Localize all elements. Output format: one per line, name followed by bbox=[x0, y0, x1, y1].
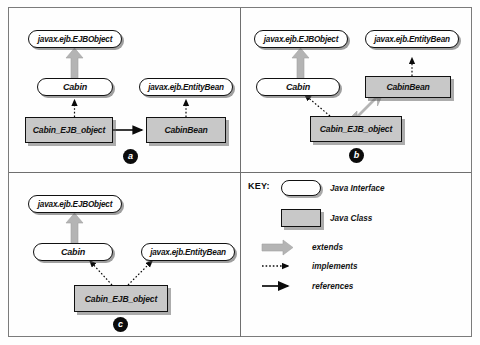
key-title: KEY: bbox=[248, 181, 270, 191]
panel-b-node-cabinbean[interactable]: CabinBean bbox=[365, 76, 451, 98]
panel-c-node-cabin[interactable]: Cabin bbox=[33, 243, 113, 261]
panel-c-node-entitybean[interactable]: javax.ejb.EntityBean bbox=[141, 243, 235, 261]
key-class-symbol bbox=[281, 209, 321, 227]
key-interface-symbol bbox=[281, 180, 321, 196]
key-label-extends: extends bbox=[312, 243, 343, 252]
key-label-interface: Java Interface bbox=[330, 184, 385, 193]
key-label-references: references bbox=[312, 282, 353, 291]
panel-c-node-cabin-ejb-object[interactable]: Cabin_EJB_object bbox=[74, 285, 168, 312]
panel-b-node-cabin-ejb-object[interactable]: Cabin_EJB_object bbox=[310, 116, 402, 142]
panel-b-node-cabin[interactable]: Cabin bbox=[256, 78, 340, 96]
panel-a-node-cabinbean[interactable]: CabinBean bbox=[146, 117, 226, 143]
panel-b-node-ejbobject[interactable]: javax.ejb.EJBObject bbox=[254, 30, 348, 48]
panel-divider-horizontal bbox=[9, 172, 471, 173]
diagram-figure: javax.ejb.EJBObject Cabin javax.ejb.Enti… bbox=[0, 0, 480, 345]
panel-a-marker: a bbox=[123, 149, 138, 164]
panel-a-node-cabin-ejb-object[interactable]: Cabin_EJB_object bbox=[25, 117, 113, 143]
key-label-class: Java Class bbox=[330, 214, 372, 223]
panel-a-node-ejbobject[interactable]: javax.ejb.EJBObject bbox=[28, 30, 122, 48]
key-label-implements: implements bbox=[312, 262, 358, 271]
panel-a-node-entitybean[interactable]: javax.ejb.EntityBean bbox=[139, 78, 233, 96]
panel-b-node-entitybean[interactable]: javax.ejb.EntityBean bbox=[365, 30, 459, 48]
panel-c-node-ejbobject[interactable]: javax.ejb.EJBObject bbox=[28, 195, 122, 213]
panel-c-marker: c bbox=[113, 317, 128, 332]
panel-b-marker: b bbox=[349, 148, 364, 163]
panel-a-node-cabin[interactable]: Cabin bbox=[37, 78, 113, 96]
